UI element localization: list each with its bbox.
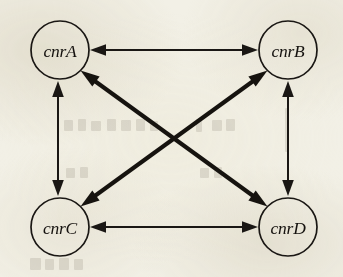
node-cnrC-label: cnrC	[43, 218, 78, 238]
edge-cnrA-cnrC	[52, 81, 64, 196]
node-cnrA-label: cnrA	[43, 41, 77, 61]
graph-canvas: cnrA cnrB cnrC cnrD	[0, 0, 343, 277]
edge-cnrB-cnrD	[282, 81, 294, 196]
node-cnrB-label: cnrB	[271, 41, 305, 61]
node-cnrC[interactable]: cnrC	[31, 198, 89, 256]
node-cnrD[interactable]: cnrD	[259, 198, 317, 256]
node-cnrA[interactable]: cnrA	[31, 21, 89, 79]
node-cnrD-label: cnrD	[270, 218, 306, 238]
node-cnrB[interactable]: cnrB	[259, 21, 317, 79]
figure-root: cnrA cnrB cnrC cnrD	[0, 0, 343, 277]
edge-cnrC-cnrD	[90, 221, 258, 233]
edge-cnrA-cnrB	[90, 44, 258, 56]
